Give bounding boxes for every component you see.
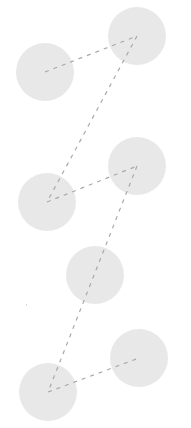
stray-mark xyxy=(26,304,27,306)
nodes-layer xyxy=(16,7,168,421)
marks-layer xyxy=(26,304,27,306)
node-link-diagram xyxy=(0,0,191,428)
node-circle-5 xyxy=(66,246,124,304)
